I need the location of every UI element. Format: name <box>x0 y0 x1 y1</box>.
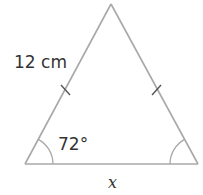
left-angle-arc <box>38 139 53 164</box>
right-angle-arc <box>170 139 185 164</box>
base-variable-label: x <box>108 173 117 192</box>
triangle-diagram: 12 cm 72° x <box>0 0 203 195</box>
angle-label: 72° <box>58 134 88 154</box>
side-length-label: 12 cm <box>14 52 67 72</box>
